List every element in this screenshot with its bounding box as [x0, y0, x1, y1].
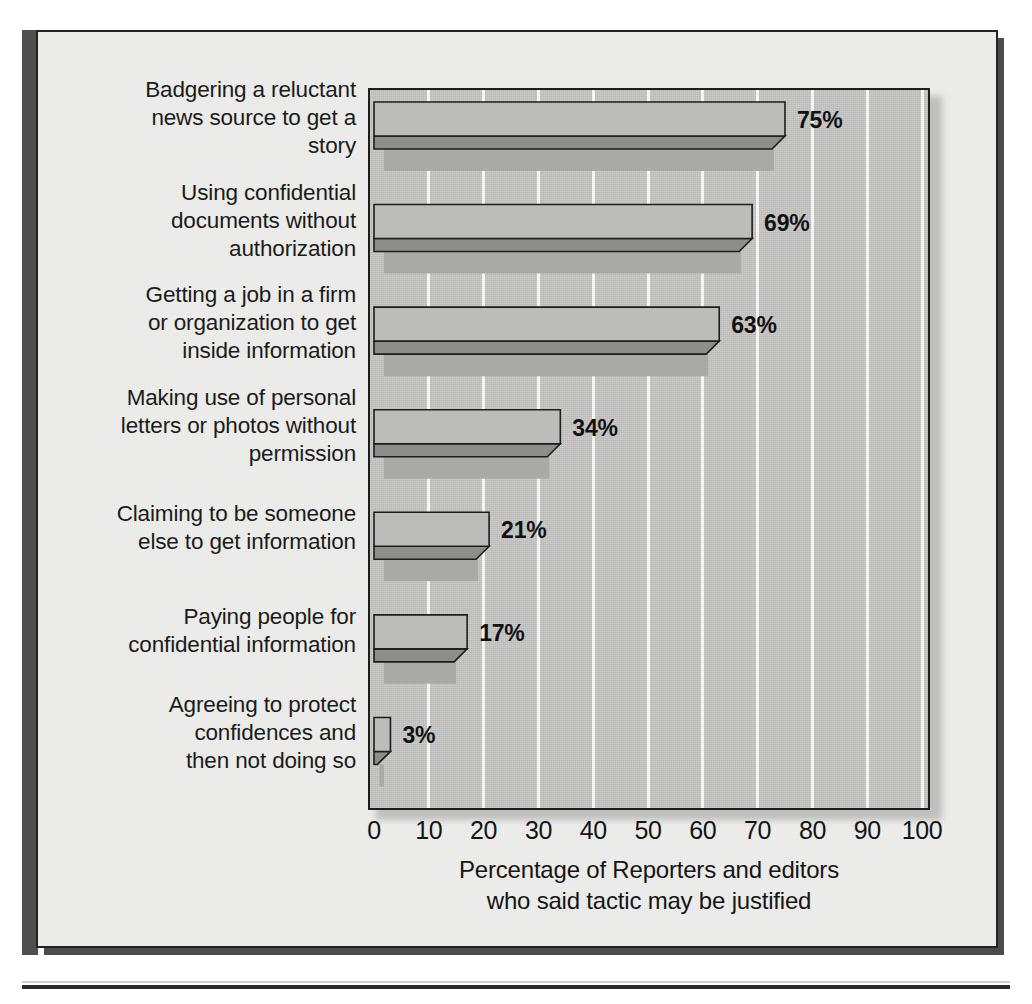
category-label-line: news source to get a	[56, 104, 356, 132]
x-tick-90: 90	[854, 816, 881, 845]
category-label-line: Getting a job in a firm	[56, 281, 356, 309]
category-label-line: then not doing so	[56, 747, 356, 775]
bar-face	[384, 149, 774, 171]
x-tick-60: 60	[689, 816, 716, 845]
category-label: Getting a job in a firmor organization t…	[56, 281, 356, 365]
bar-face	[374, 239, 752, 252]
category-label-line: documents without	[56, 207, 356, 235]
x-tick-10: 10	[415, 816, 442, 845]
category-label: Badgering a reluctantnews source to get …	[56, 76, 356, 160]
bar-face	[374, 546, 489, 559]
bar-face	[374, 136, 785, 149]
category-label-line: permission	[56, 440, 356, 468]
value-label: 75%	[797, 107, 842, 134]
category-label-line: Using confidential	[56, 179, 356, 207]
category-label: Paying people forconfidential informatio…	[56, 603, 356, 659]
bar-face	[384, 559, 478, 581]
x-tick-50: 50	[634, 816, 661, 845]
bar-series	[370, 90, 928, 808]
x-tick-80: 80	[799, 816, 826, 845]
category-label: Claiming to be someoneelse to get inform…	[56, 500, 356, 556]
category-label-line: Claiming to be someone	[56, 500, 356, 528]
category-label-line: inside information	[56, 337, 356, 365]
x-tick-40: 40	[580, 816, 607, 845]
category-label: Agreeing to protectconfidences andthen n…	[56, 691, 356, 775]
bar-face	[374, 205, 752, 239]
bar-face	[374, 751, 390, 764]
category-label-line: Badgering a reluctant	[56, 76, 356, 104]
bar-face	[374, 512, 489, 546]
bar-face	[379, 764, 384, 786]
category-label-line: confidences and	[56, 719, 356, 747]
bar-face	[374, 307, 719, 341]
x-axis-title-line2: who said tactic may be justified	[368, 885, 930, 916]
category-label-line: letters or photos without	[56, 412, 356, 440]
category-label-line: or organization to get	[56, 309, 356, 337]
bar-face	[374, 102, 785, 136]
bar-face	[374, 410, 560, 444]
x-axis-title: Percentage of Reporters and editors who …	[368, 854, 930, 916]
bar-face	[374, 649, 467, 662]
value-label: 34%	[572, 415, 617, 442]
category-label-line: Making use of personal	[56, 384, 356, 412]
bar-face	[374, 444, 560, 457]
x-tick-0: 0	[367, 816, 381, 845]
value-label: 17%	[479, 620, 524, 647]
x-tick-30: 30	[525, 816, 552, 845]
bar-face	[384, 662, 456, 684]
category-label-line: confidential information	[56, 631, 356, 659]
bar-face	[374, 717, 390, 751]
bar-face	[374, 341, 719, 354]
x-tick-100: 100	[902, 816, 943, 845]
category-label-line: Paying people for	[56, 603, 356, 631]
category-label: Using confidentialdocuments withoutautho…	[56, 179, 356, 263]
category-label-line: else to get information	[56, 528, 356, 556]
value-label: 63%	[731, 312, 776, 339]
bar-face	[384, 252, 741, 274]
bar-chart: 75%69%63%34%21%17%3% Badgering a relucta…	[36, 30, 998, 948]
bottom-rule	[22, 985, 1010, 989]
bar-face	[384, 354, 708, 376]
bar-face	[384, 457, 549, 479]
x-tick-20: 20	[470, 816, 497, 845]
x-axis-title-line1: Percentage of Reporters and editors	[368, 854, 930, 885]
category-label: Making use of personalletters or photos …	[56, 384, 356, 468]
bar-face	[374, 615, 467, 649]
category-label-line: authorization	[56, 235, 356, 263]
x-tick-70: 70	[744, 816, 771, 845]
bottom-rule-highlight	[22, 981, 1010, 983]
category-label-line: story	[56, 132, 356, 160]
plot-area	[368, 88, 930, 810]
chart-page: 75%69%63%34%21%17%3% Badgering a relucta…	[0, 0, 1032, 1004]
value-label: 3%	[402, 722, 435, 749]
category-label-line: Agreeing to protect	[56, 691, 356, 719]
value-label: 69%	[764, 210, 809, 237]
value-label: 21%	[501, 517, 546, 544]
